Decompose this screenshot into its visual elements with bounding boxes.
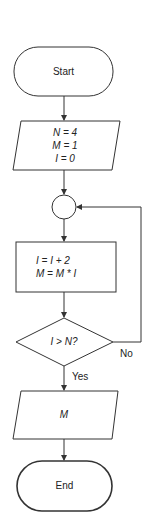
init-line-1: N = 4 xyxy=(40,127,90,139)
no-label: No xyxy=(120,348,133,360)
yes-label: Yes xyxy=(72,371,88,383)
process-line-2: M = M * I xyxy=(36,268,76,280)
process-line-1: I = I + 2 xyxy=(36,255,70,267)
init-line-3: I = 0 xyxy=(40,153,90,165)
output-label: M xyxy=(14,409,114,421)
init-line-2: M = 1 xyxy=(40,140,90,152)
edge-no-loop xyxy=(77,207,141,342)
start-label: Start xyxy=(14,66,113,78)
decision-label: I > N? xyxy=(34,336,94,348)
connector-circle xyxy=(52,195,76,219)
end-label: End xyxy=(17,480,112,492)
process-rect xyxy=(16,242,116,292)
